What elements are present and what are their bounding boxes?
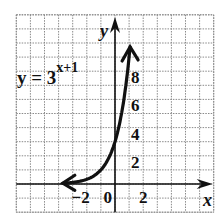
x-tick-labels: −202 [72, 188, 148, 207]
x-axis-label: x [202, 190, 212, 210]
x-tick-label: 2 [139, 188, 148, 207]
x-tick-label: 0 [104, 188, 113, 207]
y-tick-label: 2 [131, 153, 140, 172]
x-tick-label: −2 [72, 188, 90, 207]
equation-label: y = 3x+1 [17, 60, 78, 88]
y-tick-label: 4 [131, 125, 140, 144]
y-tick-label: 6 [131, 96, 140, 115]
equation-base: y = 3 [17, 67, 56, 88]
exponential-graph: −202 2468 y x y = 3x+1 [0, 0, 219, 222]
y-tick-label: 8 [131, 68, 140, 87]
equation-exponent: x+1 [56, 60, 78, 75]
y-axis-label: y [98, 21, 109, 41]
y-tick-labels: 2468 [131, 68, 140, 172]
